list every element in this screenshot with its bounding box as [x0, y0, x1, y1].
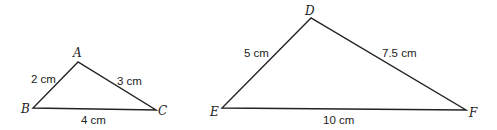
vertex-c-label: C — [158, 104, 167, 118]
side-de-label: 5 cm — [244, 47, 269, 59]
side-ef-label: 10 cm — [323, 114, 354, 126]
vertex-e-label: E — [209, 105, 219, 119]
vertex-a-label: A — [72, 46, 82, 60]
similar-triangles-diagram: A B C 2 cm 3 cm 4 cm D E F 5 cm 7.5 cm 1… — [0, 0, 497, 130]
side-bc-label: 4 cm — [81, 114, 106, 126]
side-ab-label: 2 cm — [31, 73, 56, 85]
vertex-d-label: D — [304, 4, 315, 18]
vertex-f-label: F — [468, 106, 478, 120]
triangle-def: D E F 5 cm 7.5 cm 10 cm — [209, 4, 478, 126]
side-df-label: 7.5 cm — [382, 47, 417, 59]
vertex-b-label: B — [20, 102, 30, 116]
triangle-abc: A B C 2 cm 3 cm 4 cm — [20, 46, 167, 126]
triangle-def-outline — [222, 18, 466, 110]
side-ac-label: 3 cm — [117, 75, 142, 87]
